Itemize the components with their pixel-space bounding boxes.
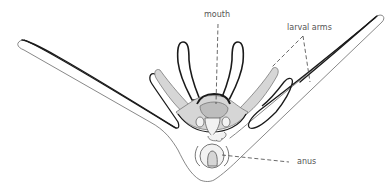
- mouth-label: mouth: [204, 11, 230, 19]
- pluteus-larva-diagram: mouth larval arms anus: [0, 0, 390, 193]
- mouth-leader-line: [216, 24, 218, 104]
- anus-leader-line: [222, 155, 289, 162]
- anal-region: [195, 144, 229, 168]
- larval-arms-leader-line-1: [271, 36, 303, 68]
- left-postoral-arm-inner: [24, 40, 180, 128]
- larval-arms-label: larval arms: [287, 24, 332, 32]
- preoral-arms: [178, 42, 244, 100]
- anus-label: anus: [297, 158, 316, 166]
